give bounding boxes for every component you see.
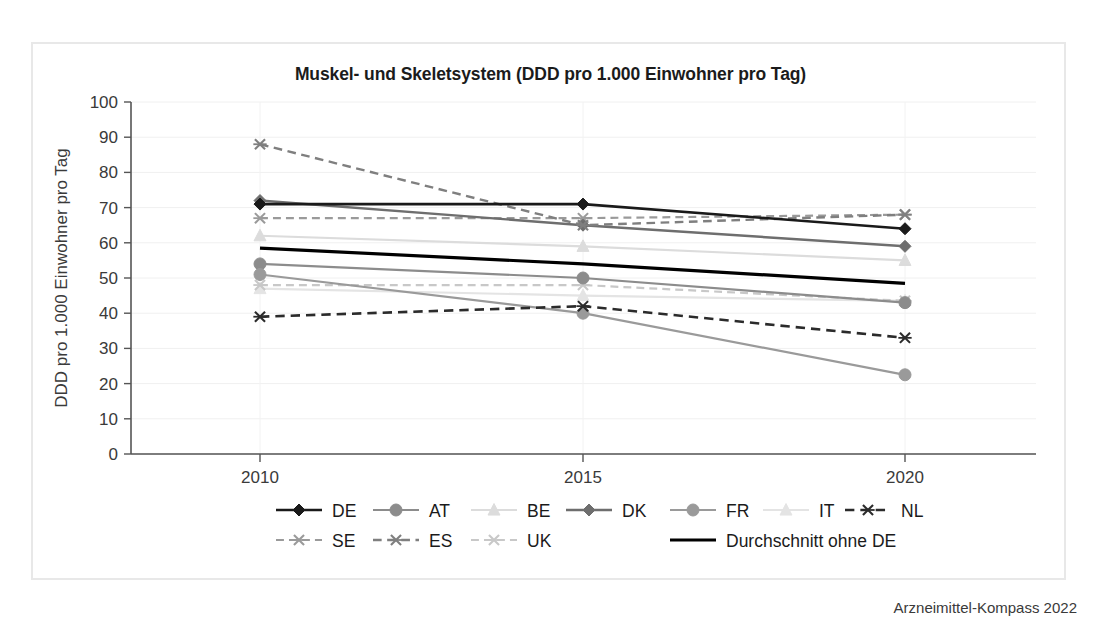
plot-area: 0102030405060708090100201020152020DDD pr…: [33, 44, 1068, 582]
ytick-label: 50: [99, 269, 118, 288]
legend-label: SE: [332, 531, 355, 551]
marker-diamond: [899, 223, 911, 235]
y-axis-title: DDD pro 1.000 Einwohner pro Tag: [52, 148, 71, 408]
ytick-label: 0: [109, 445, 118, 464]
marker-circle: [254, 268, 266, 280]
marker-diamond: [293, 504, 305, 516]
ytick-label: 100: [90, 93, 118, 112]
legend-label: ES: [429, 531, 452, 551]
legend-label: IT: [819, 501, 835, 521]
ytick-label: 20: [99, 375, 118, 394]
legend-label: AT: [429, 501, 450, 521]
ytick-label: 70: [99, 199, 118, 218]
legend-item-at[interactable]: AT: [373, 501, 450, 521]
marker-diamond: [583, 504, 595, 516]
xtick-label: 2020: [886, 468, 924, 487]
line-chart-svg: 0102030405060708090100201020152020DDD pr…: [33, 44, 1068, 582]
ytick-label: 10: [99, 410, 118, 429]
source-note: Arzneimittel-Kompass 2022: [894, 599, 1077, 616]
marker-circle: [390, 504, 402, 516]
marker-circle: [899, 369, 911, 381]
legend-label: FR: [726, 501, 749, 521]
legend-item-nl[interactable]: NL: [845, 501, 924, 521]
legend-item-it[interactable]: IT: [763, 501, 835, 521]
ytick-label: 30: [99, 339, 118, 358]
marker-circle: [899, 297, 911, 309]
legend-label: Durchschnitt ohne DE: [726, 531, 896, 551]
ytick-label: 40: [99, 304, 118, 323]
ytick-label: 80: [99, 163, 118, 182]
marker-diamond: [899, 240, 911, 252]
xtick-label: 2010: [241, 468, 279, 487]
marker-circle: [687, 504, 699, 516]
ytick-label: 90: [99, 128, 118, 147]
legend-item-dk[interactable]: DK: [566, 501, 647, 521]
ytick-label: 60: [99, 234, 118, 253]
legend-item-es[interactable]: ES: [373, 531, 452, 551]
legend-label: UK: [527, 531, 552, 551]
legend-label: NL: [901, 501, 924, 521]
legend-item-durchschnitt-ohne-de[interactable]: Durchschnitt ohne DE: [670, 531, 896, 551]
legend-label: BE: [527, 501, 550, 521]
chart-page: Muskel- und Skeletsystem (DDD pro 1.000 …: [0, 0, 1095, 628]
legend-item-be[interactable]: BE: [471, 501, 550, 521]
legend-item-uk[interactable]: UK: [471, 531, 552, 551]
legend-item-de[interactable]: DE: [276, 501, 356, 521]
xtick-label: 2015: [564, 468, 602, 487]
legend-item-se[interactable]: SE: [276, 531, 355, 551]
marker-circle: [577, 272, 589, 284]
marker-diamond: [577, 198, 589, 210]
legend-label: DE: [332, 501, 356, 521]
legend-item-fr[interactable]: FR: [670, 501, 749, 521]
chart-frame: Muskel- und Skeletsystem (DDD pro 1.000 …: [31, 42, 1066, 580]
legend-label: DK: [622, 501, 647, 521]
